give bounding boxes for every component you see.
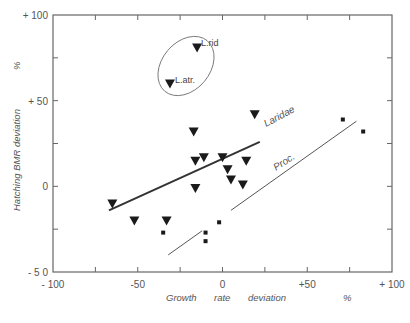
laridae-point xyxy=(238,181,248,190)
x-axis-word-rate: rate xyxy=(214,292,230,303)
laridae-point xyxy=(241,157,251,166)
laridae-point xyxy=(199,153,209,162)
axis-ticks xyxy=(53,15,392,272)
y-tick-label: + 50 xyxy=(28,96,48,107)
y-tick-label: + 100 xyxy=(23,10,49,21)
laridae-regression-line xyxy=(109,142,260,211)
laridae-point xyxy=(223,165,233,174)
laridae-point xyxy=(250,110,260,119)
laridae-point xyxy=(129,217,139,226)
point-label-latr: L.atr. xyxy=(175,75,195,85)
y-axis-title: Hatching BMR deviation % xyxy=(11,61,22,211)
data-points xyxy=(107,44,365,244)
x-tick-label: - 100 xyxy=(42,279,65,290)
laridae-point xyxy=(189,128,199,137)
plot-frame xyxy=(53,15,392,272)
point-label-lrid: L.rid xyxy=(201,38,219,48)
proc-point xyxy=(217,220,221,224)
scatter-chart: - 100-500+50+ 100+ 100+ 500- 5 0 Growth … xyxy=(0,0,410,323)
y-tick-label: - 5 0 xyxy=(28,267,48,278)
y-tick-label: 0 xyxy=(42,181,48,192)
laridae-point xyxy=(226,175,236,184)
laridae-point xyxy=(162,217,172,226)
x-tick-label: + 100 xyxy=(379,279,405,290)
x-tick-label: 0 xyxy=(220,279,226,290)
y-axis-label: Hatching BMR deviation xyxy=(11,109,22,211)
proc-point xyxy=(161,231,165,235)
x-axis-title: Growth rate deviation % xyxy=(166,292,352,303)
x-axis-word-deviation: deviation xyxy=(248,292,286,303)
y-axis-unit: % xyxy=(11,61,22,70)
laridae-point xyxy=(190,157,200,166)
laridae-line-label: Laridae xyxy=(262,103,297,129)
proc-point xyxy=(204,231,208,235)
proc-point xyxy=(341,118,345,122)
x-tick-label: -50 xyxy=(131,279,146,290)
x-tick-label: +50 xyxy=(299,279,316,290)
proc-point xyxy=(204,239,208,243)
point-latr xyxy=(165,80,175,89)
proc-point xyxy=(361,130,365,134)
laridae-point xyxy=(190,184,200,193)
x-axis-word-growth: Growth xyxy=(166,292,197,303)
proc-line-label: Proc. xyxy=(271,151,297,173)
x-axis-unit: % xyxy=(343,292,352,303)
